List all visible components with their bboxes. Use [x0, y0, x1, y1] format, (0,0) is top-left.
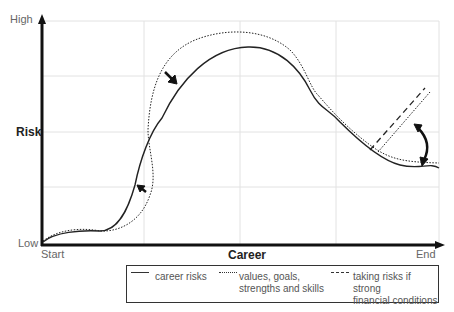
- y-axis-arrow-icon: [38, 14, 46, 24]
- y-axis-title: Risk: [16, 125, 41, 139]
- arrow-down-icon: [420, 157, 428, 166]
- legend-dashed-swatch: [331, 272, 349, 273]
- y-low-label: Low: [18, 237, 38, 249]
- taking-risks-dotted-line: [378, 92, 430, 152]
- legend: career risks values, goals, strengths an…: [126, 265, 439, 303]
- legend-taking-risks: taking risks if strong financial conditi…: [353, 271, 438, 307]
- y-high-label: High: [10, 13, 33, 25]
- legend-values-goals: values, goals, strengths and skills: [239, 271, 324, 295]
- legend-career-risks: career risks: [155, 271, 207, 283]
- x-axis-arrow-icon: [435, 241, 445, 249]
- legend-dotted-swatch: [219, 272, 237, 273]
- x-axis-title: Career: [228, 248, 266, 262]
- x-start-label: Start: [41, 248, 64, 260]
- gridlines: [43, 21, 439, 245]
- legend-solid-swatch: [131, 272, 149, 273]
- values-goals-line: [43, 32, 439, 241]
- x-end-label: End: [416, 248, 436, 260]
- taking-risks-dashed-line: [370, 88, 425, 150]
